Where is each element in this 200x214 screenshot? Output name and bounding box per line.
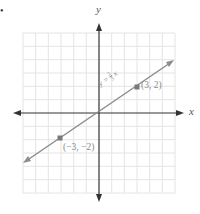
coordinate-plane	[0, 0, 200, 214]
arrow-left-icon	[13, 110, 21, 116]
point-label-3-2: (3, 2)	[141, 80, 162, 90]
point-3-2	[135, 85, 140, 90]
page-marker: •	[0, 5, 4, 16]
line-arrow-lower-icon	[23, 156, 31, 163]
arrow-up-icon	[96, 23, 102, 31]
y-axis-label: y	[96, 3, 101, 15]
x-axis-label: x	[189, 105, 194, 117]
line-arrow-upper-icon	[166, 60, 174, 67]
point-neg3-neg2	[58, 136, 63, 141]
arrow-right-icon	[176, 110, 184, 116]
point-label-neg3-neg2: (−3, −2)	[63, 142, 94, 152]
arrow-down-icon	[96, 194, 102, 202]
